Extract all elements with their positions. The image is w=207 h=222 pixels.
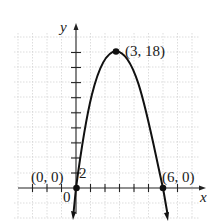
x-axis-label: x	[199, 189, 207, 205]
parabola-graph: y x 2 0 (3, 18) (0, 0) (6, 0)	[0, 0, 207, 222]
point-root	[160, 185, 167, 192]
root-point-label: (6, 0)	[162, 169, 195, 186]
x-axis	[18, 184, 206, 192]
point-vertex	[113, 48, 120, 55]
y-tick-label: 2	[79, 165, 87, 181]
grid	[14, 33, 200, 218]
y-axis-arrow-icon	[74, 23, 79, 30]
curve-left-arrow-icon	[71, 211, 76, 220]
point-origin	[73, 185, 80, 192]
vertex-label: (3, 18)	[125, 43, 165, 60]
origin-point-label: (0, 0)	[31, 169, 64, 186]
origin-label: 0	[63, 189, 71, 205]
y-axis-label: y	[58, 19, 67, 35]
curve-right-arrow-icon	[164, 212, 169, 221]
parabola-curve	[74, 51, 168, 214]
